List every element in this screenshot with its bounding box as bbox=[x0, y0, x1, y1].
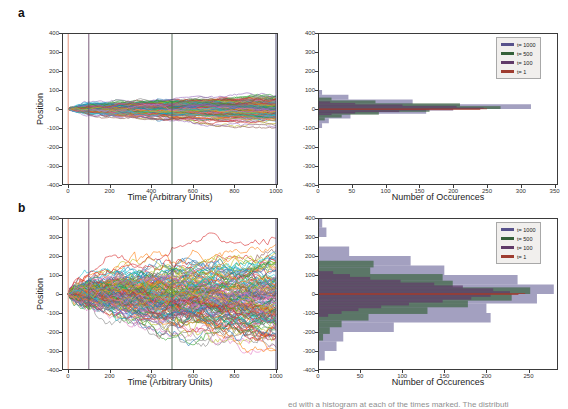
legend-swatch-t=1 bbox=[501, 70, 514, 73]
y-tick-label: -200 bbox=[293, 144, 315, 150]
x-tick-label: 0 bbox=[53, 188, 83, 194]
legend-label: t= 1 bbox=[517, 254, 526, 260]
x-tick-label: 600 bbox=[178, 373, 208, 379]
histogram-bar-t=100 bbox=[318, 311, 342, 314]
b-histogram-legend: t= 1000t= 500t= 100t= 1 bbox=[496, 222, 541, 264]
histogram-bar-t=100 bbox=[318, 106, 457, 108]
y-tick-label: 100 bbox=[37, 87, 59, 93]
a-trajectories-plot bbox=[62, 33, 278, 185]
histogram-bar-t=1000 bbox=[318, 218, 322, 228]
y-tick-label: 100 bbox=[37, 272, 59, 278]
legend-label: t= 100 bbox=[517, 60, 532, 66]
legend-swatch-t=100 bbox=[501, 246, 514, 249]
y-tick-label: 200 bbox=[37, 68, 59, 74]
x-tick-label: 400 bbox=[136, 188, 166, 194]
histogram-bar-t=500 bbox=[318, 118, 325, 121]
x-tick-label: 150 bbox=[429, 373, 459, 379]
histogram-bar-t=500 bbox=[318, 334, 323, 341]
histogram-bar-t=100 bbox=[318, 103, 355, 105]
histogram-bar-t=1000 bbox=[318, 228, 326, 238]
histogram-bar-t=1000 bbox=[318, 342, 337, 352]
y-tick-mark bbox=[59, 33, 62, 34]
y-tick-label: 300 bbox=[37, 234, 59, 240]
y-tick-label: 100 bbox=[293, 272, 315, 278]
y-tick-mark bbox=[59, 185, 62, 186]
x-tick-mark bbox=[234, 185, 235, 188]
y-tick-mark bbox=[59, 128, 62, 129]
legend-swatch-t=1 bbox=[501, 255, 514, 258]
y-tick-label: 400 bbox=[293, 215, 315, 221]
x-tick-label: 0 bbox=[303, 188, 333, 194]
x-tick-mark bbox=[419, 185, 420, 188]
y-tick-label: -200 bbox=[37, 329, 59, 335]
y-tick-label: 200 bbox=[293, 253, 315, 259]
histogram-bar-t=100 bbox=[318, 280, 401, 283]
x-tick-label: 0 bbox=[303, 373, 333, 379]
histogram-bar-t=500 bbox=[318, 115, 342, 118]
histogram-bar-t=100 bbox=[318, 274, 350, 277]
y-tick-label: 200 bbox=[293, 68, 315, 74]
legend-label: t= 1000 bbox=[517, 227, 536, 233]
y-tick-mark bbox=[59, 147, 62, 148]
x-tick-label: 350 bbox=[540, 188, 568, 194]
histogram-bar-t=1000 bbox=[318, 123, 322, 128]
x-tick-mark bbox=[529, 370, 530, 373]
histogram-bar-t=1 bbox=[318, 294, 518, 295]
x-tick-mark bbox=[444, 370, 445, 373]
legend-swatch-t=1000 bbox=[501, 43, 514, 46]
histogram-bar-t=100 bbox=[318, 283, 434, 286]
legend-item: t= 1000 bbox=[501, 225, 536, 234]
x-tick-label: 800 bbox=[219, 188, 249, 194]
legend-item: t= 500 bbox=[501, 234, 536, 243]
y-tick-label: -300 bbox=[37, 348, 59, 354]
y-tick-mark bbox=[59, 294, 62, 295]
y-tick-label: -200 bbox=[293, 329, 315, 335]
y-tick-mark bbox=[315, 218, 318, 219]
legend-label: t= 500 bbox=[517, 236, 532, 242]
y-tick-label: -100 bbox=[293, 310, 315, 316]
y-tick-mark bbox=[59, 166, 62, 167]
y-tick-mark bbox=[59, 370, 62, 371]
histogram-bar-t=500 bbox=[318, 327, 330, 334]
y-tick-label: -200 bbox=[37, 144, 59, 150]
x-tick-mark bbox=[487, 185, 488, 188]
legend-item: t= 500 bbox=[501, 49, 536, 58]
x-tick-mark bbox=[234, 370, 235, 373]
x-tick-mark bbox=[193, 370, 194, 373]
histogram-bar-t=1000 bbox=[318, 90, 322, 95]
y-tick-mark bbox=[315, 33, 318, 34]
legend-swatch-t=500 bbox=[501, 237, 514, 240]
x-tick-mark bbox=[318, 370, 319, 373]
x-tick-label: 200 bbox=[438, 188, 468, 194]
b-trajectories-plot bbox=[62, 218, 278, 370]
y-tick-label: 300 bbox=[293, 49, 315, 55]
y-tick-label: -100 bbox=[37, 125, 59, 131]
y-tick-mark bbox=[315, 313, 318, 314]
histogram-bar-t=100 bbox=[318, 111, 399, 113]
x-tick-label: 800 bbox=[219, 373, 249, 379]
y-tick-label: 0 bbox=[293, 291, 315, 297]
histogram-bar-t=100 bbox=[318, 271, 333, 274]
histogram-bar-t=100 bbox=[318, 314, 328, 317]
legend-swatch-t=1000 bbox=[501, 228, 514, 231]
y-tick-mark bbox=[315, 71, 318, 72]
y-tick-label: 400 bbox=[37, 215, 59, 221]
y-tick-mark bbox=[59, 90, 62, 91]
x-tick-mark bbox=[151, 185, 152, 188]
a-histogram-legend: t= 1000t= 500t= 100t= 1 bbox=[496, 37, 541, 79]
histogram-bar-t=100 bbox=[318, 114, 332, 116]
x-tick-label: 200 bbox=[95, 188, 125, 194]
y-tick-label: 100 bbox=[293, 87, 315, 93]
x-tick-mark bbox=[555, 185, 556, 188]
histogram-bar-t=1000 bbox=[318, 351, 325, 361]
y-tick-mark bbox=[315, 147, 318, 148]
y-tick-label: 0 bbox=[37, 291, 59, 297]
y-tick-label: -300 bbox=[293, 348, 315, 354]
histogram-bar-t=100 bbox=[318, 288, 493, 291]
y-tick-mark bbox=[59, 256, 62, 257]
legend-item: t= 1000 bbox=[501, 40, 536, 49]
x-tick-label: 50 bbox=[337, 188, 367, 194]
x-tick-label: 150 bbox=[404, 188, 434, 194]
x-tick-mark bbox=[276, 185, 277, 188]
x-tick-mark bbox=[318, 185, 319, 188]
